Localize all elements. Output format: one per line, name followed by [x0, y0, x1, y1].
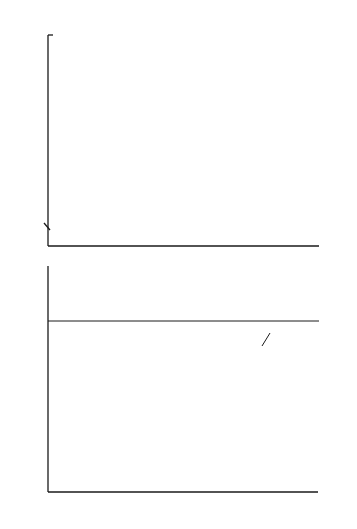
natural-increase-leader-line	[262, 333, 270, 346]
chart-canvas	[0, 0, 357, 529]
population-chart	[44, 35, 319, 246]
natural-increase-chart	[48, 266, 319, 492]
figure	[0, 0, 357, 529]
axis-break-icon	[44, 223, 50, 230]
